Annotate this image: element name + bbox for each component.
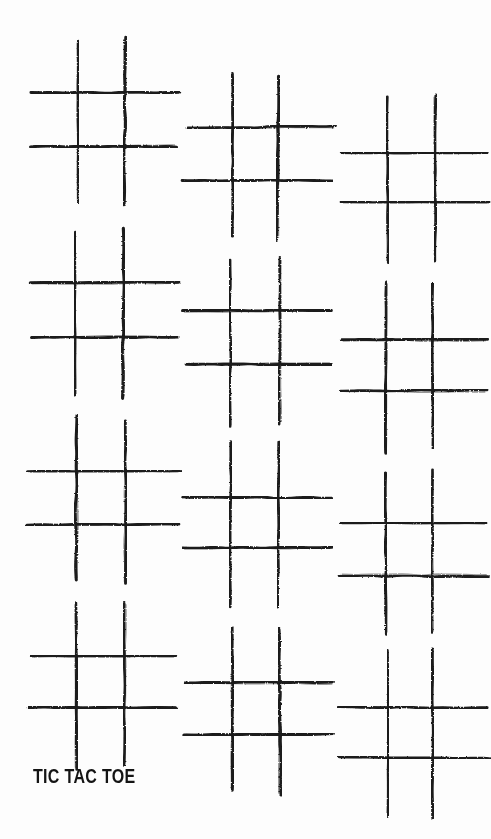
tic-tac-toe-board[interactable] <box>182 73 336 239</box>
tic-tac-toe-board[interactable] <box>183 258 332 426</box>
tic-tac-toe-board[interactable] <box>28 603 176 769</box>
tic-tac-toe-board[interactable] <box>30 228 178 398</box>
poster-caption: TIC TAC TOE <box>33 766 135 786</box>
tic-tac-toe-board[interactable] <box>341 95 489 263</box>
tic-tac-toe-board[interactable] <box>184 627 333 795</box>
grid-canvas <box>0 0 491 839</box>
tic-tac-toe-board[interactable] <box>31 37 179 204</box>
tic-tac-toe-poster: TIC TAC TOE <box>0 0 491 839</box>
tic-tac-toe-board[interactable] <box>341 282 488 453</box>
tic-tac-toe-board[interactable] <box>339 470 488 634</box>
tic-tac-toe-board[interactable] <box>27 416 180 584</box>
tic-tac-toe-board[interactable] <box>182 442 331 607</box>
tic-tac-toe-board[interactable] <box>339 649 490 818</box>
